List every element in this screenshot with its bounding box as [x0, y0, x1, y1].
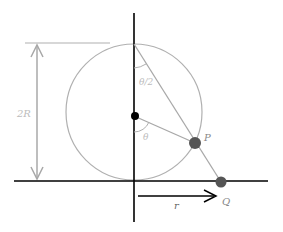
angle-arc: [134, 122, 149, 132]
center-point: [131, 112, 139, 120]
half-angle-arc: [134, 64, 146, 68]
point-q: [216, 177, 227, 188]
distance-label: r: [174, 200, 180, 211]
geometry-figure: 2R θ/2 θ P Q r: [0, 0, 283, 232]
height-label: 2R: [16, 108, 31, 119]
line-top-to-q: [134, 44, 221, 182]
angle-label: θ: [143, 132, 149, 142]
half-angle-label: θ/2: [139, 77, 153, 87]
diagram-canvas: 2R θ/2 θ P Q r: [0, 0, 283, 232]
point-q-label: Q: [222, 196, 230, 207]
point-p-label: P: [203, 132, 211, 143]
point-p: [189, 137, 201, 149]
